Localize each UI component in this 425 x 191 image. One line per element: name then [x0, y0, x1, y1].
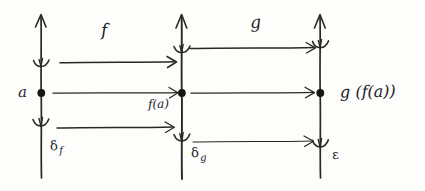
point-gfa-dot	[316, 89, 324, 97]
diagram-canvas: a f g f(a) g (f(a)) δf δg ε	[0, 0, 425, 191]
label-map-g: g	[249, 14, 261, 32]
delta-g-subscript: g	[200, 152, 207, 163]
arrow-g-middle	[191, 87, 315, 98]
axis-line-1	[41, 16, 42, 178]
label-delta-f: δf	[50, 139, 62, 153]
label-epsilon: ε	[332, 148, 339, 161]
arrow-f-lower	[57, 122, 175, 133]
label-map-f: f	[101, 22, 108, 39]
delta-g-glyph: δ	[191, 145, 200, 160]
label-point-a: a	[18, 85, 28, 100]
label-point-fa: f(a)	[148, 98, 169, 111]
label-point-gfa: g (f(a))	[340, 84, 396, 101]
point-fa-dot	[178, 89, 186, 97]
point-a-dot	[37, 89, 45, 97]
arrow-g-lower	[193, 136, 314, 146]
delta-f-glyph: δ	[49, 138, 58, 154]
arrow-f-upper	[60, 57, 177, 68]
arrow-g-upper	[190, 43, 316, 54]
delta-f-subscript: f	[59, 145, 63, 156]
axis-line-3	[320, 16, 321, 178]
label-delta-g: δg	[191, 146, 206, 160]
